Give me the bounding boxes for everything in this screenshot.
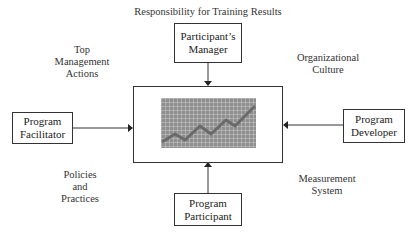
node-label-line: Program (184, 197, 232, 210)
node-participants-manager: Participant’s Manager (174, 23, 242, 63)
node-label-line: Program (20, 115, 65, 128)
node-label-line: Program (351, 113, 397, 126)
results-chart-icon (161, 98, 256, 148)
node-label-line: Manager (181, 43, 236, 56)
node-program-developer: Program Developer (343, 109, 405, 143)
node-program-facilitator: Program Facilitator (12, 112, 73, 144)
node-label-line: Developer (351, 126, 397, 139)
node-label-line: Participant’s (181, 30, 236, 43)
node-program-participant: Program Participant (174, 193, 242, 226)
node-label-line: Participant (184, 210, 232, 223)
training-results-box (133, 86, 283, 163)
trend-line-icon (161, 98, 256, 148)
node-label-line: Facilitator (20, 128, 65, 141)
arrow-left-icon (283, 121, 288, 129)
